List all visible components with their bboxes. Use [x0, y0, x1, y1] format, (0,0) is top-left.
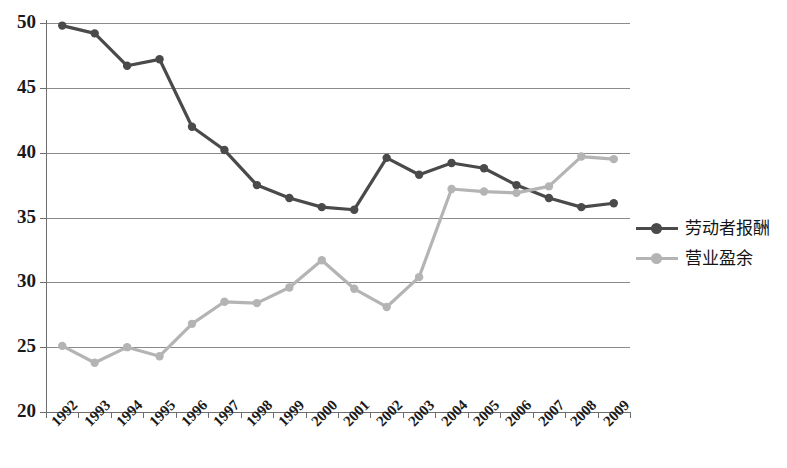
plot-area [46, 23, 630, 412]
legend-swatch-operating-surplus [636, 252, 678, 264]
legend-label-labor-compensation: 劳动者报酬 [685, 220, 770, 237]
y-axis-line [46, 20, 47, 415]
legend-item-operating-surplus[interactable]: 营业盈余 [636, 243, 786, 273]
x-tick-mark [630, 412, 631, 418]
y-tick-label: 30 [0, 270, 36, 292]
x-tick-mark [143, 412, 144, 418]
legend: 劳动者报酬 营业盈余 [636, 213, 786, 273]
x-tick-mark [46, 412, 47, 418]
gridline [46, 347, 630, 348]
x-tick-mark [241, 412, 242, 418]
x-tick-mark [598, 412, 599, 418]
x-tick-mark [306, 412, 307, 418]
x-tick-mark [370, 412, 371, 418]
gridline [46, 153, 630, 154]
x-tick-mark [403, 412, 404, 418]
y-tick-label: 40 [0, 141, 36, 163]
x-tick-mark [111, 412, 112, 418]
y-tick-label: 45 [0, 76, 36, 98]
x-tick-mark [468, 412, 469, 418]
y-tick-label: 20 [0, 400, 36, 422]
gridline [46, 23, 630, 24]
y-tick-label: 35 [0, 206, 36, 228]
legend-swatch-labor-compensation [636, 222, 678, 234]
gridline [46, 282, 630, 283]
legend-item-labor-compensation[interactable]: 劳动者报酬 [636, 213, 786, 243]
x-tick-mark [533, 412, 534, 418]
line-chart: 20253035404550 1992199319941995199619971… [0, 0, 787, 468]
x-tick-mark [78, 412, 79, 418]
y-tick-label: 50 [0, 11, 36, 33]
gridline [46, 88, 630, 89]
x-tick-mark [338, 412, 339, 418]
x-tick-mark [435, 412, 436, 418]
y-tick-label: 25 [0, 335, 36, 357]
legend-label-operating-surplus: 营业盈余 [685, 250, 753, 267]
x-tick-mark [176, 412, 177, 418]
gridline [46, 218, 630, 219]
